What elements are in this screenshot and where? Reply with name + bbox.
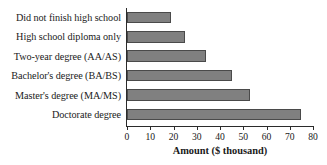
bar [127,109,301,121]
bar-row [127,105,313,124]
x-axis-tick-label: 40 [215,130,225,143]
category-label: High school diploma only [0,27,124,46]
bar-row [127,8,313,27]
category-axis-labels: Did not finish high schoolHigh school di… [0,8,124,124]
x-axis-tick-label: 20 [169,130,179,143]
x-axis-tick-label: 80 [308,130,318,143]
plot-area [127,8,313,124]
bar [127,12,171,24]
category-label: Two-year degree (AA/AS) [0,47,124,66]
category-label: Master's degree (MA/MS) [0,86,124,105]
bar-row [127,47,313,66]
bar-series [127,8,313,124]
bar [127,89,250,101]
x-axis-tick-label: 60 [262,130,272,143]
bar [127,50,206,62]
category-label: Bachelor's degree (BA/BS) [0,66,124,85]
x-axis-tick-label: 70 [285,130,295,143]
bar [127,70,232,82]
x-axis-title: Amount ($ thousand) [127,145,313,156]
bar-row [127,66,313,85]
bar [127,31,185,43]
bar-chart: Did not finish high schoolHigh school di… [0,0,327,165]
x-axis-tick-labels: 01020304050607080 [127,130,313,144]
category-label: Did not finish high school [0,8,124,27]
bar-row [127,86,313,105]
x-axis-tick-label: 30 [192,130,202,143]
x-axis-tick-label: 10 [145,130,155,143]
x-axis-tick-label: 0 [125,130,130,143]
category-label: Doctorate degree [0,105,124,124]
bar-row [127,27,313,46]
x-axis-tick-label: 50 [238,130,248,143]
